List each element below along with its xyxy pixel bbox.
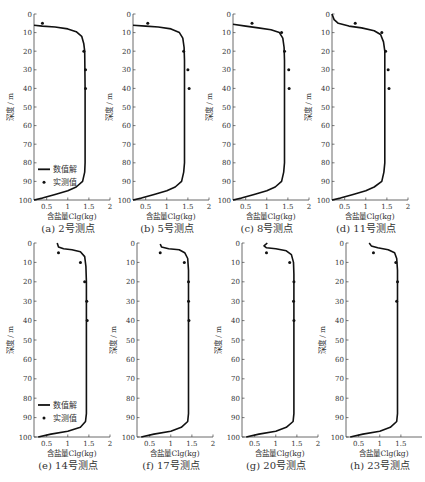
panel-a: 01020304050607080901000.511.52深度 / m含盐量C… — [5, 11, 112, 234]
measured-point — [354, 22, 357, 25]
x-tick-label: 1.5 — [282, 203, 293, 211]
panel-f: 01020304050607080901000.511.52深度 / m含盐量C… — [108, 240, 215, 471]
y-tick-label: 0 — [131, 240, 135, 248]
y-tick-label: 10 — [126, 259, 135, 267]
y-tick-label: 90 — [222, 178, 231, 186]
measured-point — [188, 87, 191, 90]
y-tick-label: 90 — [122, 178, 131, 186]
measured-point — [387, 68, 390, 71]
y-tick-label: 40 — [335, 317, 344, 325]
x-tick-label: 1.5 — [186, 440, 197, 448]
y-tick-label: 10 — [222, 29, 231, 37]
y-tick-label: 10 — [122, 29, 131, 37]
y-tick-label: 0 — [127, 11, 131, 19]
y-tick-label: 60 — [321, 122, 330, 130]
y-tick-label: 60 — [231, 356, 240, 364]
measured-point — [57, 251, 60, 254]
measured-point — [86, 319, 89, 322]
y-tick-label: 80 — [23, 395, 32, 403]
y-tick-label: 90 — [23, 178, 32, 186]
x-tick-label: 0.5 — [41, 203, 52, 211]
y-tick-label: 70 — [321, 141, 330, 149]
y-tick-label: 40 — [23, 317, 32, 325]
panel-b: 01020304050607080901000.511.52深度 / m含盐量C… — [104, 11, 211, 234]
x-tick-label: 2 — [108, 440, 112, 448]
y-tick-label: 100 — [19, 434, 32, 442]
y-tick-label: 70 — [231, 375, 240, 383]
panel-c: 01020304050607080901000.511.52深度 / m含盐量C… — [204, 11, 311, 234]
x-tick-label: 1 — [364, 203, 368, 211]
y-tick-label: 20 — [321, 48, 330, 56]
measured-point — [83, 280, 86, 283]
x-tick-label: 1.5 — [83, 440, 94, 448]
y-tick-label: 60 — [222, 122, 231, 130]
y-tick-label: 10 — [231, 259, 240, 267]
legend-label-points: 实测值 — [53, 413, 77, 423]
panel-g: 01020304050607080901000.511.52深度 / m含盐量C… — [213, 240, 320, 471]
y-tick-label: 40 — [126, 317, 135, 325]
y-tick-label: 20 — [231, 278, 240, 286]
y-tick-label: 80 — [126, 395, 135, 403]
panel-caption: (e) 14号测点 — [38, 459, 98, 471]
y-tick-label: 0 — [28, 240, 32, 248]
x-tick-label: 1.5 — [182, 203, 193, 211]
y-tick-label: 40 — [122, 85, 131, 93]
measured-point — [79, 261, 82, 264]
measured-point — [292, 300, 295, 303]
y-tick-label: 10 — [23, 259, 32, 267]
x-tick-label: 1 — [66, 203, 70, 211]
y-tick-label: 20 — [23, 48, 32, 56]
x-tick-label: 1 — [274, 440, 278, 448]
y-tick-label: 80 — [231, 395, 240, 403]
x-tick-label: 0.5 — [240, 203, 251, 211]
x-tick-label: 1 — [165, 203, 169, 211]
y-tick-label: 70 — [222, 141, 231, 149]
measured-point — [182, 50, 185, 53]
y-axis-label: 深度 / m — [213, 326, 223, 354]
y-tick-label: 60 — [335, 356, 344, 364]
legend-label-line: 数值解 — [53, 164, 77, 174]
y-axis-label: 深度 / m — [303, 93, 313, 121]
numerical-solution-line — [350, 243, 397, 437]
y-tick-label: 10 — [23, 29, 32, 37]
legend-label-line: 数值解 — [53, 400, 77, 410]
y-tick-label: 70 — [335, 375, 344, 383]
y-axis-label: 深度 / m — [104, 93, 114, 121]
y-tick-label: 0 — [340, 240, 344, 248]
numerical-solution-line — [332, 14, 385, 200]
y-tick-label: 20 — [23, 278, 32, 286]
y-tick-label: 100 — [331, 434, 344, 442]
legend: 数值解实测值 — [38, 164, 77, 187]
y-tick-label: 80 — [23, 159, 32, 167]
y-tick-label: 50 — [222, 104, 231, 112]
y-tick-label: 20 — [126, 278, 135, 286]
x-tick-label: 1 — [265, 203, 269, 211]
y-tick-label: 0 — [227, 11, 231, 19]
y-tick-label: 90 — [321, 178, 330, 186]
x-tick-label: 1.5 — [381, 203, 392, 211]
y-tick-label: 50 — [122, 104, 131, 112]
measured-point — [288, 261, 291, 264]
measured-point — [292, 319, 295, 322]
y-tick-label: 90 — [335, 414, 344, 422]
x-axis-label: 含盐量Clg(kg) — [255, 448, 304, 458]
numerical-solution-line — [246, 243, 294, 437]
x-axis-label: 含盐量Clg(kg) — [246, 211, 295, 221]
measured-point — [41, 22, 44, 25]
measured-point — [283, 50, 286, 53]
measured-point — [395, 300, 398, 303]
y-tick-label: 90 — [23, 414, 32, 422]
x-tick-label: 0.5 — [249, 440, 260, 448]
y-tick-label: 50 — [321, 104, 330, 112]
y-tick-label: 70 — [23, 375, 32, 383]
y-tick-label: 100 — [122, 434, 135, 442]
x-tick-label: 0.5 — [353, 440, 364, 448]
x-tick-label: 1 — [169, 440, 173, 448]
measured-point — [292, 280, 295, 283]
measured-point — [288, 87, 291, 90]
measured-point — [396, 280, 399, 283]
y-tick-label: 100 — [218, 197, 231, 205]
y-tick-label: 40 — [222, 85, 231, 93]
y-axis-label: 深度 / m — [204, 93, 214, 121]
measured-point — [287, 68, 290, 71]
